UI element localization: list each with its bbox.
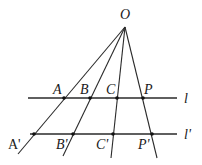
point-A [62, 96, 66, 100]
point-C-prime [111, 132, 115, 136]
label-l-prime: l' [184, 127, 192, 142]
label-C: C [106, 82, 116, 97]
label-O: O [120, 7, 130, 22]
label-A-prime: A' [8, 137, 21, 152]
point-P-prime [150, 132, 154, 136]
label-l: l [184, 91, 188, 106]
point-A-prime [32, 132, 36, 136]
label-C-prime: C' [96, 137, 109, 152]
point-B [88, 96, 92, 100]
label-B-prime: B' [56, 137, 69, 152]
perspectivity-diagram: O A B C P A' B' C' P' l l' [0, 0, 202, 165]
label-A: A [52, 82, 62, 97]
ray-O-B [63, 27, 125, 156]
label-B: B [80, 82, 89, 97]
point-C [115, 96, 119, 100]
label-P: P [143, 82, 153, 97]
label-P-prime: P' [137, 137, 151, 152]
point-B-prime [71, 132, 75, 136]
